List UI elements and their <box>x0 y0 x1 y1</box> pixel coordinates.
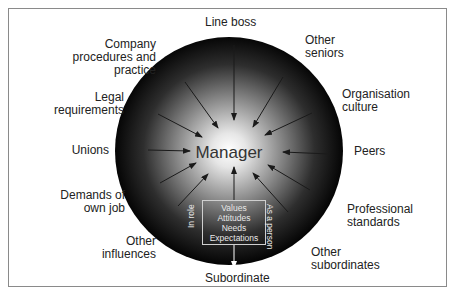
label-unions: Unions <box>72 144 109 157</box>
box-line-needs: Needs <box>203 223 265 233</box>
label-other-subordinates: Othersubordinates <box>311 246 380 272</box>
label-legal-requirements: Legalrequirements <box>54 91 124 117</box>
box-line-expectations: Expectations <box>203 233 265 243</box>
manager-label: Manager <box>179 143 279 163</box>
label-peers: Peers <box>354 145 385 158</box>
label-demands-own-job: Demands ofown job <box>60 189 125 215</box>
box-line-values: Values <box>203 203 265 213</box>
label-subordinate: Subordinate <box>205 272 270 285</box>
label-organisation-culture: Organisationculture <box>342 88 410 114</box>
in-role-label: In role <box>186 204 196 228</box>
label-professional-standards: Professionalstandards <box>347 203 413 229</box>
label-other-seniors: Otherseniors <box>305 34 344 60</box>
label-line-boss: Line boss <box>205 16 256 29</box>
as-a-person-label: As a person <box>265 204 275 249</box>
values-box: Values Attitudes Needs Expectations <box>202 200 266 245</box>
label-company-procedures: Companyprocedures andpractice <box>73 38 156 77</box>
box-line-attitudes: Attitudes <box>203 213 265 223</box>
label-other-influences: Otherinfluences <box>102 235 156 261</box>
